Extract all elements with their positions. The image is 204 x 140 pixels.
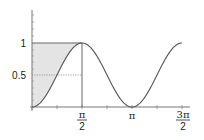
x-tick-label-3half-pi-numerator: 3π [177,109,190,120]
chart: 1 0.5 π 2 π 3π 2 [0,0,204,140]
x-tick-label-half-pi-numerator: π [79,109,86,120]
x-tick-label-half-pi-denominator: 2 [79,121,85,132]
x-tick-label-pi: π [129,110,136,121]
y-tick-label-1: 1 [20,38,26,49]
y-tick-label-0.5: 0.5 [12,70,26,81]
x-axis-ticks [32,105,182,111]
x-tick-label-3half-pi-denominator: 2 [180,121,186,132]
